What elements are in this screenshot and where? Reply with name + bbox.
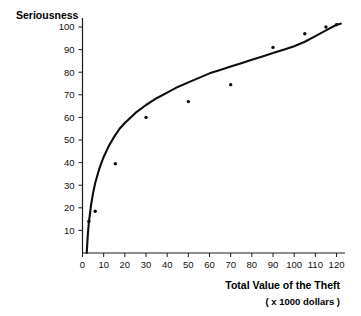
data-point	[144, 116, 147, 119]
y-tick-label-70: 70	[64, 89, 75, 100]
x-tick-label-0: 0	[80, 259, 85, 270]
x-tick-label-80: 80	[247, 259, 258, 270]
x-axis-tick-labels: 0102030405060708090100110120	[80, 259, 345, 270]
x-tick-label-40: 40	[162, 259, 173, 270]
fitted-curve	[87, 24, 341, 253]
y-axis-title: Seriousness	[16, 9, 79, 21]
seriousness-vs-theft-value-scatter-chart: 102030405060708090100 010203040506070809…	[0, 0, 361, 316]
x-tick-label-10: 10	[98, 259, 109, 270]
x-tick-label-100: 100	[286, 259, 302, 270]
x-tick-label-60: 60	[204, 259, 215, 270]
y-axis-tick-labels: 102030405060708090100	[59, 21, 75, 235]
y-axis-group: 102030405060708090100	[59, 18, 83, 253]
x-tick-label-30: 30	[141, 259, 152, 270]
data-point	[114, 162, 117, 165]
y-tick-label-100: 100	[59, 21, 75, 32]
x-tick-label-90: 90	[268, 259, 279, 270]
x-tick-label-110: 110	[308, 259, 323, 270]
x-tick-label-20: 20	[120, 259, 131, 270]
y-tick-label-60: 60	[64, 112, 75, 123]
chart-container: 102030405060708090100 010203040506070809…	[0, 0, 361, 316]
data-point	[187, 100, 190, 103]
data-point	[303, 32, 306, 35]
x-axis-title: Total Value of the Theft	[225, 279, 340, 291]
y-tick-label-20: 20	[64, 202, 75, 213]
data-point	[94, 210, 97, 213]
data-point	[229, 83, 232, 86]
x-axis-units-label: ( x 1000 dollars )	[266, 296, 340, 307]
data-point	[271, 46, 274, 49]
x-tick-label-70: 70	[225, 259, 236, 270]
data-point	[87, 220, 90, 223]
data-point	[324, 25, 327, 28]
x-tick-label-50: 50	[183, 259, 194, 270]
x-axis-ticks	[83, 253, 337, 257]
x-axis-group: 0102030405060708090100110120	[80, 253, 345, 270]
y-tick-label-90: 90	[64, 44, 75, 55]
x-tick-label-120: 120	[329, 259, 345, 270]
y-tick-label-80: 80	[64, 67, 75, 78]
y-tick-label-40: 40	[64, 157, 75, 168]
y-tick-label-50: 50	[64, 134, 75, 145]
y-tick-label-10: 10	[64, 225, 75, 236]
y-tick-label-30: 30	[64, 180, 75, 191]
data-point	[335, 23, 338, 26]
